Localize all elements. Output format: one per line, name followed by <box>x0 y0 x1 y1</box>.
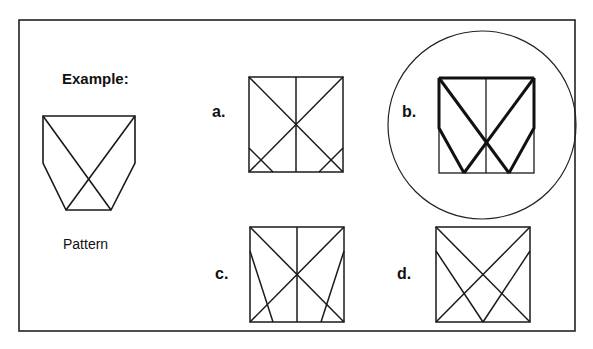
option-a[interactable]: a. <box>212 77 343 172</box>
option-c-label: c. <box>215 265 228 282</box>
selection-circle <box>388 31 576 219</box>
option-a-figure <box>249 77 343 172</box>
option-d[interactable]: d. <box>397 227 530 322</box>
option-b-figure <box>439 78 534 173</box>
option-d-label: d. <box>397 265 411 282</box>
diagram-canvas: Example: Pattern a. b. <box>0 0 593 349</box>
option-d-figure <box>436 227 530 322</box>
example-heading: Example: <box>62 70 129 87</box>
option-c-figure <box>250 227 344 322</box>
option-a-label: a. <box>212 103 225 120</box>
option-b-label: b. <box>402 103 416 120</box>
option-b[interactable]: b. <box>388 31 576 219</box>
pattern-figure <box>43 116 135 210</box>
pattern-caption: Pattern <box>63 236 108 252</box>
option-c[interactable]: c. <box>215 227 344 322</box>
